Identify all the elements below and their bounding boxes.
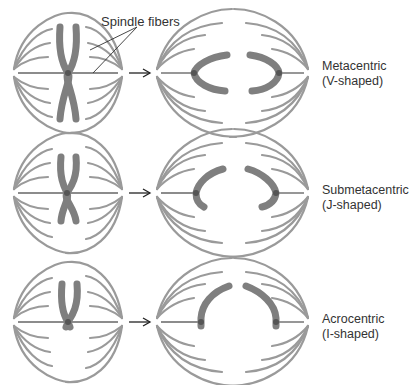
submetacentric-type: Submetacentric — [322, 183, 409, 198]
spindle-fibers-callout: Spindle fibers — [101, 14, 180, 29]
arrow-icon — [129, 318, 150, 326]
arrow-icon — [129, 69, 150, 77]
acrocentric-type: Acrocentric — [322, 312, 385, 327]
metacentric-type: Metacentric — [322, 59, 387, 74]
acrocentric-row — [14, 258, 308, 385]
submetacentric-label: Submetacentric (J-shaped) — [322, 183, 409, 213]
submetacentric-row — [14, 129, 308, 257]
submetacentric-shape: (J-shaped) — [322, 198, 409, 213]
metacentric-label: Metacentric (V-shaped) — [322, 59, 387, 89]
metacentric-shape: (V-shaped) — [322, 74, 387, 89]
acrocentric-shape: (I-shaped) — [322, 327, 385, 342]
acrocentric-label: Acrocentric (I-shaped) — [322, 312, 385, 342]
arrow-icon — [129, 189, 150, 197]
